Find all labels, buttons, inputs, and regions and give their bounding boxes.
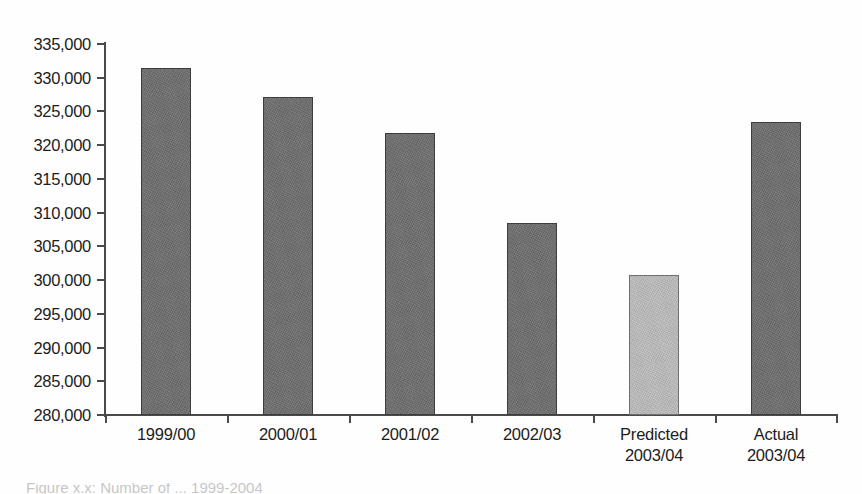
y-axis-tick-label: 325,000 [33, 102, 91, 121]
x-axis-tick [715, 414, 717, 423]
x-axis-category-label: Actual 2003/04 [715, 424, 837, 466]
y-axis-tick-label: 320,000 [33, 136, 91, 155]
figure-caption-clipped: Figure x.x: Number of ... 1999-2004 [26, 483, 356, 494]
y-axis-tick: 315,000 [97, 178, 105, 180]
caption-text: Figure x.x: Number of ... 1999-2004 [26, 483, 356, 494]
bar-3 [385, 133, 435, 415]
y-axis-tick: 320,000 [97, 144, 105, 146]
bar-2 [263, 97, 313, 415]
y-axis-tick-label: 330,000 [33, 68, 91, 87]
bar-chart-figure: 280,000285,000290,000295,000300,000305,0… [0, 0, 862, 494]
y-axis-tick-label: 290,000 [33, 338, 91, 357]
y-axis-tick-label: 335,000 [33, 35, 91, 54]
y-axis-tick: 305,000 [97, 245, 105, 247]
bar-4 [507, 223, 557, 415]
plot-area [105, 44, 837, 415]
x-axis-category-label: Predicted 2003/04 [593, 424, 715, 466]
x-axis-category-label: 2001/02 [349, 424, 471, 445]
x-axis-category-label: 1999/00 [105, 424, 227, 445]
y-axis-tick-label: 310,000 [33, 203, 91, 222]
y-axis-tick-label: 280,000 [33, 406, 91, 425]
y-axis-tick-label: 315,000 [33, 169, 91, 188]
y-axis-tick: 295,000 [97, 313, 105, 315]
x-axis-tick [349, 414, 351, 423]
x-axis-tick [105, 414, 107, 423]
y-axis-tick: 285,000 [97, 380, 105, 382]
x-axis-tick [593, 414, 595, 423]
y-axis-tick: 325,000 [97, 110, 105, 112]
y-axis-tick-label: 300,000 [33, 271, 91, 290]
y-axis-tick: 310,000 [97, 212, 105, 214]
y-axis-tick: 290,000 [97, 347, 105, 349]
y-axis-tick-label: 295,000 [33, 304, 91, 323]
y-axis-tick: 335,000 [97, 43, 105, 45]
x-axis-tick [471, 414, 473, 423]
y-axis-tick-label: 305,000 [33, 237, 91, 256]
bar-1 [141, 68, 191, 415]
y-axis-tick: 330,000 [97, 77, 105, 79]
y-axis-tick-label: 285,000 [33, 372, 91, 391]
x-axis-tick [227, 414, 229, 423]
bar-5 [629, 275, 679, 415]
x-axis-category-label: 2000/01 [227, 424, 349, 445]
x-axis-tick [836, 414, 838, 423]
bar-6 [751, 122, 801, 415]
y-axis-tick: 300,000 [97, 279, 105, 281]
x-axis-category-label: 2002/03 [471, 424, 593, 445]
